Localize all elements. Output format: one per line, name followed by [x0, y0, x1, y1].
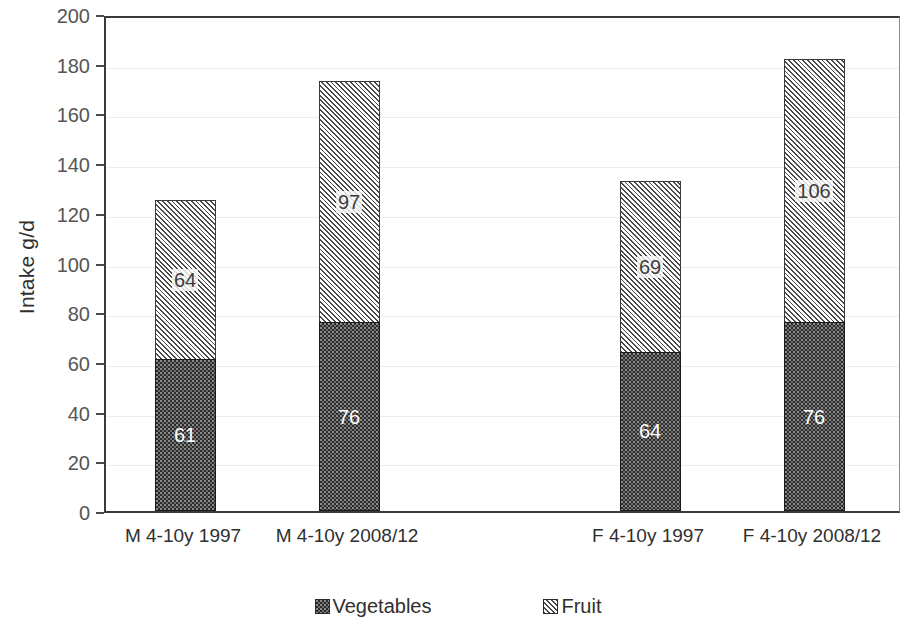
bar-segment-fruit[interactable]: 106	[784, 59, 845, 322]
y-axis-tick-label: 140	[14, 154, 90, 177]
bar-value-label: 97	[336, 191, 362, 213]
bar-value-label: 61	[174, 425, 196, 445]
bar[interactable]: 6461	[155, 200, 216, 511]
gridline	[106, 167, 899, 168]
y-axis-tick-label: 160	[14, 104, 90, 127]
bar-segment-vegetables[interactable]: 64	[620, 352, 681, 511]
gridline	[106, 217, 899, 218]
y-axis-tick	[96, 164, 104, 166]
legend-item[interactable]: Vegetables	[315, 595, 432, 618]
bar-value-label: 64	[172, 269, 198, 291]
y-axis-tick-label: 100	[14, 253, 90, 276]
stacked-bar-chart: Intake g/d 020406080100120140160180200 6…	[0, 0, 916, 636]
y-axis-tick	[96, 264, 104, 266]
x-axis-category-label: M 4-10y 2008/12	[276, 525, 419, 547]
y-axis-tick-label: 80	[14, 303, 90, 326]
y-axis-tick-label: 20	[14, 452, 90, 475]
bar-segment-fruit[interactable]: 69	[620, 181, 681, 352]
x-axis-category-label: F 4-10y 2008/12	[743, 525, 881, 547]
y-axis-tick	[96, 313, 104, 315]
legend-label: Vegetables	[333, 595, 432, 618]
bar-segment-fruit[interactable]: 97	[319, 81, 380, 322]
bar-segment-vegetables[interactable]: 61	[155, 359, 216, 511]
y-axis-tick-label: 60	[14, 352, 90, 375]
y-axis-tick	[96, 363, 104, 365]
x-axis-category-label: M 4-10y 1997	[125, 525, 241, 547]
x-axis-category-label: F 4-10y 1997	[592, 525, 704, 547]
gridline	[106, 366, 899, 367]
plot-area: 64619776696410676	[104, 16, 900, 513]
bar[interactable]: 6964	[620, 181, 681, 511]
bar-value-label: 76	[338, 407, 360, 427]
gridline	[106, 117, 899, 118]
legend-item[interactable]: Fruit	[543, 595, 601, 618]
y-axis-tick-label: 40	[14, 402, 90, 425]
gridline	[106, 416, 899, 417]
bar-segment-vegetables[interactable]: 76	[319, 322, 380, 511]
gridline	[106, 465, 899, 466]
gridline	[106, 267, 899, 268]
y-axis-tick-label: 0	[14, 502, 90, 525]
chart-legend: VegetablesFruit	[0, 595, 916, 618]
y-axis-tick	[96, 15, 104, 17]
bar-segment-fruit[interactable]: 64	[155, 200, 216, 359]
legend-swatch-veg-icon	[315, 599, 330, 614]
gridline	[106, 316, 899, 317]
gridline	[106, 68, 899, 69]
y-axis-tick	[96, 214, 104, 216]
y-axis-tick	[96, 65, 104, 67]
y-axis-tick-label: 120	[14, 203, 90, 226]
legend-label: Fruit	[561, 595, 601, 618]
y-axis-tick-label: 200	[14, 5, 90, 28]
legend-swatch-fruit-icon	[543, 599, 558, 614]
bar[interactable]: 9776	[319, 81, 380, 511]
y-axis-tick	[96, 114, 104, 116]
bar-value-label: 106	[795, 180, 832, 202]
bar-value-label: 64	[639, 421, 661, 441]
y-axis-tick	[96, 512, 104, 514]
y-axis-tick	[96, 462, 104, 464]
bar-value-label: 76	[803, 407, 825, 427]
bar[interactable]: 10676	[784, 59, 845, 511]
y-axis-tick	[96, 413, 104, 415]
y-axis-tick-label: 180	[14, 54, 90, 77]
bar-value-label: 69	[637, 256, 663, 278]
bar-segment-vegetables[interactable]: 76	[784, 322, 845, 511]
